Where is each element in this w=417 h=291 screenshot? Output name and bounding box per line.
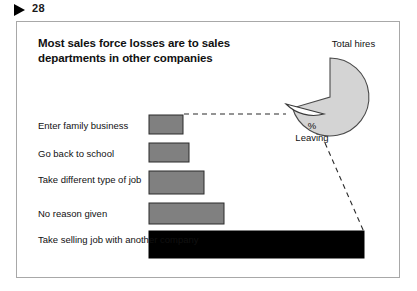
pie-chart-title: Total hires [306, 38, 400, 49]
bar-label-enter-family-business: Enter family business [38, 120, 128, 132]
leader-line-bottom [325, 143, 364, 232]
page-header: 28 [0, 0, 417, 20]
figure-panel: Most sales force losses are to sales dep… [16, 21, 400, 278]
bar-no-reason-given [149, 203, 224, 224]
bar-label-go-back-to-school: Go back to school [38, 148, 114, 160]
bar-enter-family-business [149, 115, 183, 134]
bar-label-no-reason-given: No reason given [38, 208, 107, 220]
bar-label-take-different-type-of-job: Take different type of job [38, 174, 141, 186]
bar-label-take-selling-job-with-another-company: Take selling job with another company [38, 234, 199, 246]
page-number: 28 [32, 2, 45, 14]
pie-wedge-label: % Leaving [275, 120, 349, 144]
triangle-right-icon [14, 4, 25, 16]
bar-take-different-type-of-job [149, 171, 204, 194]
bar-go-back-to-school [149, 143, 189, 162]
